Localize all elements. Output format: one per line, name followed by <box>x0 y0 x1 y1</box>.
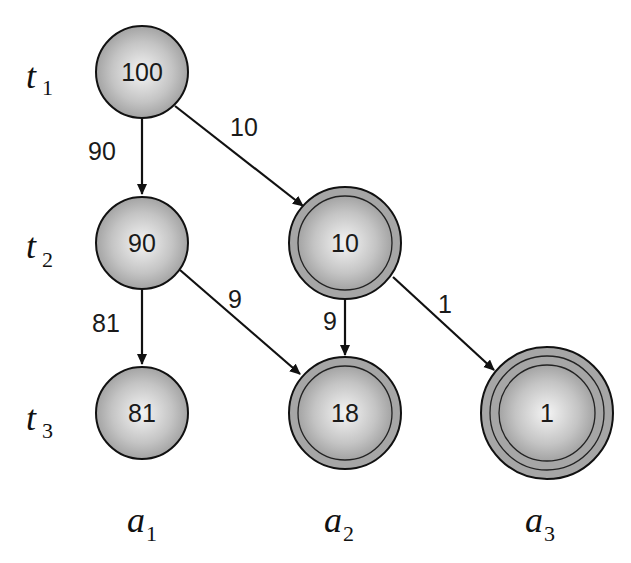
column-label-base: a <box>525 500 543 540</box>
row-label-base: t <box>26 226 37 266</box>
column-label-a2: a 2 <box>324 500 354 546</box>
edge-label-10-18: 9 <box>323 307 337 335</box>
node-1: 1 <box>481 347 613 479</box>
node-90: 90 <box>96 197 188 289</box>
node-10: 10 <box>289 187 401 299</box>
row-label-t2: t 2 <box>26 226 53 272</box>
edge-label-100-90: 90 <box>88 137 116 165</box>
column-label-base: a <box>324 500 342 540</box>
row-label-base: t <box>26 398 37 438</box>
node-label: 90 <box>128 229 156 257</box>
node-81: 81 <box>96 367 188 459</box>
column-labels: a 1 a 2 a 3 <box>127 500 555 546</box>
column-label-a3: a 3 <box>525 500 555 546</box>
row-label-sub: 3 <box>42 418 53 443</box>
node-label: 100 <box>121 58 163 86</box>
row-label-sub: 1 <box>42 75 53 100</box>
node-label: 81 <box>128 399 156 427</box>
node-label: 1 <box>540 399 554 427</box>
row-label-t1: t 1 <box>26 56 53 100</box>
column-label-base: a <box>127 500 145 540</box>
row-label-sub: 2 <box>42 247 53 272</box>
row-labels: t 1 t 2 t 3 <box>26 56 53 443</box>
tree-diagram: 90 10 81 9 9 1 100 90 10 81 18 1 t <box>0 0 631 563</box>
row-label-t3: t 3 <box>26 398 53 443</box>
edge-label-90-18: 9 <box>228 285 242 313</box>
edge-label-90-81: 81 <box>92 309 120 337</box>
column-label-sub: 3 <box>544 521 555 546</box>
node-100: 100 <box>96 26 188 118</box>
node-label: 10 <box>331 229 359 257</box>
edge-label-10-1: 1 <box>438 290 452 318</box>
node-label: 18 <box>331 399 359 427</box>
row-label-base: t <box>26 56 37 96</box>
node-18: 18 <box>289 357 401 469</box>
column-label-a1: a 1 <box>127 500 157 546</box>
edge-label-100-10: 10 <box>230 113 258 141</box>
column-label-sub: 2 <box>343 521 354 546</box>
column-label-sub: 1 <box>146 521 157 546</box>
